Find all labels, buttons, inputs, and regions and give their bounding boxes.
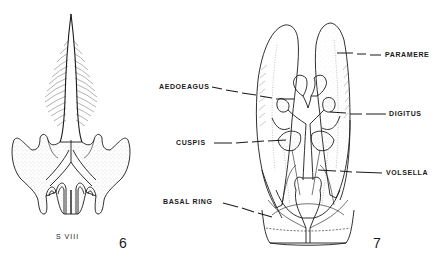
- leader-aedoeagus: [212, 87, 294, 99]
- leader-cuspis: [214, 140, 286, 143]
- label-aedoeagus: AEDOEAGUS: [159, 83, 210, 90]
- label-volsella: VOLSELLA: [386, 169, 428, 176]
- basal-ring: [262, 210, 354, 243]
- figure-7-genitalia: [256, 23, 354, 245]
- figure-6-number: 6: [119, 236, 127, 250]
- label-cuspis: CUSPIS: [176, 139, 206, 146]
- left-paramere: [256, 25, 298, 208]
- label-basal-ring: BASAL RING: [163, 198, 212, 205]
- cuspis: [278, 131, 301, 151]
- label-digitus: DIGITUS: [389, 110, 422, 117]
- figure-6-sternite: [12, 14, 130, 214]
- aedoeagus: [293, 75, 307, 96]
- figure-6-caption: S VIII: [56, 233, 79, 240]
- leader-basal-ring: [223, 203, 272, 217]
- digitus-left: [277, 98, 289, 112]
- label-paramere: PARAMERE: [385, 51, 429, 58]
- digitus-right: [323, 97, 335, 112]
- illustration-canvas: [0, 0, 440, 259]
- figure-7-number: 7: [373, 236, 381, 250]
- setae: [45, 40, 97, 126]
